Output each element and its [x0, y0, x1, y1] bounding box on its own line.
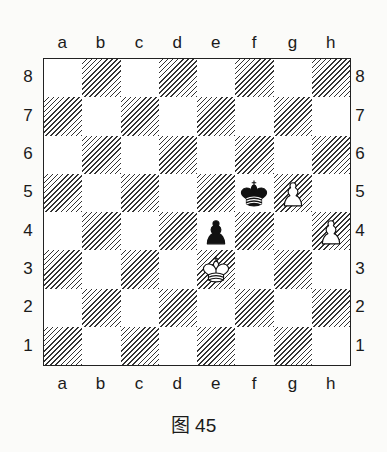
square-b5	[82, 174, 120, 212]
square-f4	[235, 212, 273, 250]
file-labels-bottom: a b c d e f g h	[43, 374, 350, 394]
square-f5	[235, 174, 273, 212]
square-a5	[44, 174, 82, 212]
square-f6	[235, 136, 273, 174]
square-c1	[121, 327, 159, 365]
white-king-icon	[199, 252, 233, 286]
white-pawn-icon	[276, 176, 310, 210]
square-h1	[312, 327, 350, 365]
file-label: c	[120, 33, 158, 53]
square-d8	[159, 59, 197, 97]
square-a3	[44, 250, 82, 288]
square-g7	[274, 97, 312, 135]
square-d6	[159, 136, 197, 174]
square-b7	[82, 97, 120, 135]
square-b6	[82, 136, 120, 174]
rank-label: 7	[18, 96, 38, 134]
rank-label: 3	[350, 250, 370, 288]
file-label: h	[312, 374, 350, 394]
square-e5	[197, 174, 235, 212]
square-c4	[121, 212, 159, 250]
rank-label: 5	[350, 173, 370, 211]
square-h7	[312, 97, 350, 135]
square-c3	[121, 250, 159, 288]
square-h6	[312, 136, 350, 174]
square-e8	[197, 59, 235, 97]
square-g8	[274, 59, 312, 97]
file-label: a	[43, 374, 81, 394]
rank-label: 2	[18, 288, 38, 326]
square-a7	[44, 97, 82, 135]
rank-labels-left: 8 7 6 5 4 3 2 1	[18, 58, 38, 365]
square-a2	[44, 289, 82, 327]
black-king-icon	[237, 176, 271, 210]
square-g1	[274, 327, 312, 365]
square-h8	[312, 59, 350, 97]
square-d5	[159, 174, 197, 212]
rank-label: 8	[18, 58, 38, 96]
square-d3	[159, 250, 197, 288]
square-e1	[197, 327, 235, 365]
square-d1	[159, 327, 197, 365]
square-a8	[44, 59, 82, 97]
square-b3	[82, 250, 120, 288]
file-label: e	[197, 374, 235, 394]
rank-label: 6	[18, 135, 38, 173]
rank-label: 2	[350, 288, 370, 326]
file-label: c	[120, 374, 158, 394]
square-h3	[312, 250, 350, 288]
file-label: b	[81, 33, 119, 53]
square-f1	[235, 327, 273, 365]
square-f3	[235, 250, 273, 288]
file-label: d	[158, 374, 196, 394]
black-pawn-icon	[199, 214, 233, 248]
white-pawn-icon	[314, 214, 348, 248]
file-label: g	[273, 33, 311, 53]
square-c6	[121, 136, 159, 174]
rank-label: 1	[18, 327, 38, 365]
rank-labels-right: 8 7 6 5 4 3 2 1	[350, 58, 370, 365]
square-h2	[312, 289, 350, 327]
square-f7	[235, 97, 273, 135]
square-e4	[197, 212, 235, 250]
figure-caption: 图 45	[0, 410, 387, 437]
rank-label: 4	[18, 212, 38, 250]
rank-label: 4	[350, 212, 370, 250]
square-d2	[159, 289, 197, 327]
file-label: f	[235, 374, 273, 394]
square-g2	[274, 289, 312, 327]
rank-label: 3	[18, 250, 38, 288]
square-f8	[235, 59, 273, 97]
square-g4	[274, 212, 312, 250]
rank-label: 7	[350, 96, 370, 134]
square-b1	[82, 327, 120, 365]
square-c2	[121, 289, 159, 327]
square-e6	[197, 136, 235, 174]
file-label: a	[43, 33, 81, 53]
square-g3	[274, 250, 312, 288]
file-label: e	[197, 33, 235, 53]
square-g5	[274, 174, 312, 212]
square-b2	[82, 289, 120, 327]
square-c7	[121, 97, 159, 135]
square-h4	[312, 212, 350, 250]
file-label: h	[312, 33, 350, 53]
square-a6	[44, 136, 82, 174]
square-b8	[82, 59, 120, 97]
square-c5	[121, 174, 159, 212]
rank-label: 5	[18, 173, 38, 211]
square-d7	[159, 97, 197, 135]
square-g6	[274, 136, 312, 174]
file-label: f	[235, 33, 273, 53]
rank-label: 6	[350, 135, 370, 173]
chess-board	[43, 58, 351, 366]
square-c8	[121, 59, 159, 97]
square-f2	[235, 289, 273, 327]
file-label: b	[81, 374, 119, 394]
rank-label: 1	[350, 327, 370, 365]
rank-label: 8	[350, 58, 370, 96]
file-label: g	[273, 374, 311, 394]
file-labels-top: a b c d e f g h	[43, 33, 350, 53]
square-a1	[44, 327, 82, 365]
square-e2	[197, 289, 235, 327]
